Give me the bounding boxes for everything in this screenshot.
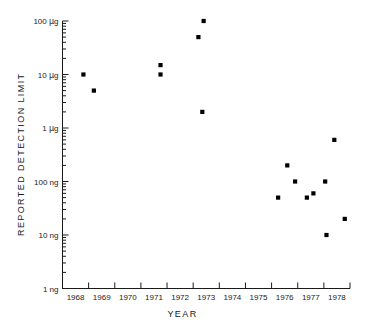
data-point — [202, 19, 206, 23]
data-point — [311, 191, 315, 195]
data-point — [196, 35, 200, 39]
scatter-chart: REPORTED DETECTION LIMIT YEAR 1 ng10 ng1… — [0, 0, 365, 332]
plot-area — [0, 0, 365, 332]
data-point — [323, 179, 327, 183]
data-point — [92, 89, 96, 93]
data-point — [81, 72, 85, 76]
data-point — [285, 163, 289, 167]
y-axis-tick-label: 10 ng — [38, 231, 58, 240]
x-axis-tick-label: 1978 — [328, 293, 346, 302]
data-point — [305, 196, 309, 200]
data-point — [158, 63, 162, 67]
y-axis-tick-label: 100 ng — [34, 177, 58, 186]
x-axis-tick-label: 1976 — [276, 293, 294, 302]
data-point — [332, 138, 336, 142]
x-axis-title: YEAR — [0, 309, 365, 319]
x-axis-tick-label: 1972 — [171, 293, 189, 302]
x-axis-tick-label: 1969 — [93, 293, 111, 302]
x-axis-tick-label: 1968 — [67, 293, 85, 302]
y-axis-major-ticks — [63, 21, 69, 289]
y-axis-title: REPORTED DETECTION LIMIT — [16, 73, 26, 236]
x-axis-tick-label: 1971 — [145, 293, 163, 302]
y-axis-tick-label: 1 µg — [42, 124, 58, 133]
y-axis-tick-label: 1 ng — [43, 284, 59, 293]
x-axis-tick-label: 1970 — [119, 293, 137, 302]
x-axis-ticks — [63, 283, 351, 289]
data-point — [276, 196, 280, 200]
data-point-series — [81, 19, 347, 237]
y-axis-tick-label: 100 µg — [33, 17, 58, 26]
data-point — [343, 217, 347, 221]
data-point — [200, 110, 204, 114]
data-point — [324, 233, 328, 237]
axis-lines — [62, 21, 350, 289]
x-axis-tick-label: 1977 — [302, 293, 320, 302]
x-axis-tick-label: 1973 — [197, 293, 215, 302]
data-point — [158, 72, 162, 76]
x-axis-tick-label: 1975 — [250, 293, 268, 302]
data-point — [293, 179, 297, 183]
x-axis-tick-label: 1974 — [223, 293, 241, 302]
y-axis-tick-label: 10 µg — [38, 70, 59, 79]
